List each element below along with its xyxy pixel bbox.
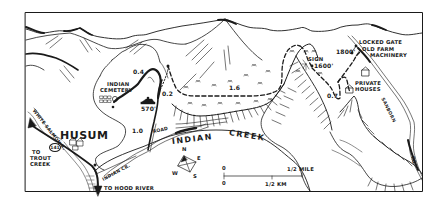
highway-141-shield: 141 xyxy=(49,143,61,152)
scale-bar xyxy=(224,173,302,179)
distance-0-2: 0.2 xyxy=(162,91,173,97)
trailhead-elevation: 570' xyxy=(141,106,156,112)
compass-e: E xyxy=(197,156,201,161)
hood-river-label: TO HOOD RIVER xyxy=(104,186,154,191)
compass-w: W xyxy=(172,171,178,176)
trout-creek-creek: CREEK xyxy=(30,162,50,167)
private-houses-line2: HOUSES xyxy=(355,87,381,92)
gate-elevation: 1800' xyxy=(336,49,356,55)
compass-s: S xyxy=(193,174,197,179)
scale-zero-mile: 0 xyxy=(222,166,226,171)
trail-map: HUSUM INDIAN CREEK ROAD INDIAN CR. WHITE… xyxy=(0,0,445,208)
cemetery-label-line2: CEMETERY xyxy=(100,88,133,93)
distance-0-7: 0.7 xyxy=(327,93,338,99)
old-farm-label-line2: MACHINERY xyxy=(370,53,407,58)
locked-gate-label: LOCKED GATE xyxy=(359,40,402,45)
distance-1-6: 1.6 xyxy=(229,85,240,91)
scale-zero-km: 0 xyxy=(222,181,226,186)
distance-0-4: 0.4 xyxy=(133,69,144,75)
map-linework xyxy=(0,0,445,208)
sign-elevation: 1600' xyxy=(314,63,334,69)
distance-1-0: 1.0 xyxy=(132,128,143,134)
scale-half-mile: 1/2 MILE xyxy=(287,167,314,172)
sanborn-rd-suffix: RD xyxy=(410,156,416,164)
town-label-husum: HUSUM xyxy=(60,130,108,141)
compass-n: N xyxy=(182,147,187,152)
compass-rose xyxy=(178,156,196,172)
scale-half-km: 1/2 KM xyxy=(265,182,287,187)
